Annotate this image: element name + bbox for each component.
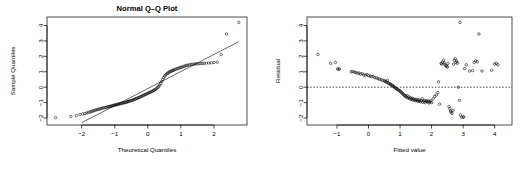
data-point bbox=[334, 61, 337, 64]
data-point bbox=[220, 53, 223, 56]
data-points bbox=[54, 21, 240, 119]
x-tick-label: −1 bbox=[333, 130, 341, 137]
data-points bbox=[317, 21, 499, 118]
plot-frame bbox=[47, 17, 247, 125]
data-point bbox=[54, 116, 57, 119]
y-tick-label: −2 bbox=[38, 114, 45, 122]
data-point bbox=[317, 53, 320, 56]
data-point bbox=[437, 81, 440, 84]
data-point bbox=[478, 33, 481, 36]
y-tick-label: 1 bbox=[38, 69, 45, 73]
y-tick-label: 2 bbox=[298, 54, 305, 58]
data-point bbox=[490, 69, 493, 72]
x-tick-label: 0 bbox=[146, 130, 150, 137]
x-axis-label: Fitted value bbox=[394, 146, 427, 153]
plot-frame bbox=[307, 17, 512, 125]
y-axis-label: Residual bbox=[274, 59, 281, 83]
x-tick-label: 0 bbox=[367, 130, 371, 137]
data-point bbox=[465, 64, 468, 67]
data-point bbox=[225, 33, 228, 36]
normal-qq-plot-svg: −2−101234−2−1012Normal Q–Q PlotTheoretic… bbox=[0, 0, 265, 172]
data-point bbox=[463, 67, 466, 70]
data-point bbox=[70, 115, 73, 118]
panel-normal-qq-plot: −2−101234−2−1012Normal Q–Q PlotTheoretic… bbox=[0, 0, 265, 172]
x-axis-label: Theoretical Quantiles bbox=[118, 146, 176, 153]
data-point bbox=[378, 78, 381, 81]
x-tick-label: 4 bbox=[493, 130, 497, 137]
data-point bbox=[458, 99, 461, 102]
panel-residual-vs-fitted-plot: −2−101234−101234Fitted valueResidual bbox=[265, 0, 530, 172]
data-point bbox=[79, 113, 82, 116]
data-point bbox=[481, 70, 484, 73]
data-point bbox=[213, 61, 216, 64]
y-tick-label: 3 bbox=[38, 39, 45, 43]
figure-root: −2−101234−2−1012Normal Q–Q PlotTheoretic… bbox=[0, 0, 530, 172]
x-tick-label: 1 bbox=[398, 130, 402, 137]
x-tick-label: −2 bbox=[78, 130, 86, 137]
x-tick-label: 3 bbox=[461, 130, 465, 137]
plot-title: Normal Q–Q Plot bbox=[117, 4, 178, 13]
data-point bbox=[471, 69, 474, 72]
y-tick-label: 4 bbox=[298, 23, 305, 27]
data-point bbox=[329, 62, 332, 65]
data-point bbox=[452, 109, 455, 112]
y-tick-label: −2 bbox=[298, 114, 305, 122]
y-tick-label: 4 bbox=[38, 23, 45, 27]
data-point bbox=[473, 61, 476, 64]
data-point bbox=[351, 70, 354, 73]
data-point bbox=[468, 70, 471, 73]
data-point bbox=[447, 62, 450, 65]
y-tick-label: −1 bbox=[38, 99, 45, 107]
x-tick-label: 1 bbox=[179, 130, 183, 137]
y-tick-label: 0 bbox=[298, 85, 305, 89]
data-point bbox=[237, 21, 240, 24]
y-tick-label: −1 bbox=[298, 99, 305, 107]
y-tick-label: 2 bbox=[38, 54, 45, 58]
data-point bbox=[216, 61, 219, 64]
x-tick-label: 2 bbox=[212, 130, 216, 137]
data-point bbox=[435, 94, 438, 97]
data-point bbox=[364, 74, 367, 77]
data-point bbox=[438, 103, 441, 106]
y-tick-label: 1 bbox=[298, 69, 305, 73]
data-point bbox=[432, 98, 435, 101]
x-tick-label: 2 bbox=[430, 130, 434, 137]
data-point bbox=[369, 75, 372, 78]
data-point bbox=[75, 114, 78, 117]
data-point bbox=[459, 21, 462, 24]
y-tick-label: 0 bbox=[38, 85, 45, 89]
residual-vs-fitted-plot-svg: −2−101234−101234Fitted valueResidual bbox=[265, 0, 530, 172]
x-tick-label: −1 bbox=[111, 130, 119, 137]
data-point bbox=[437, 91, 440, 94]
data-point bbox=[210, 62, 213, 65]
y-axis-label: Sample Quantiles bbox=[9, 47, 16, 96]
data-point bbox=[452, 63, 455, 66]
y-tick-label: 3 bbox=[298, 39, 305, 43]
data-point bbox=[497, 64, 500, 67]
